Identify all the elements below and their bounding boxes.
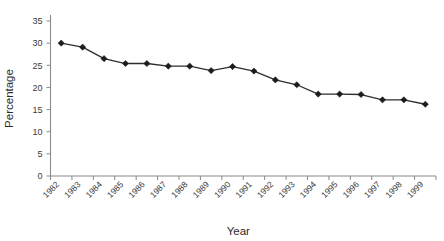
chart-canvas: 05101520253035 1982198319841985198619871… bbox=[0, 0, 444, 241]
y-tick-label: 10 bbox=[32, 127, 42, 137]
plot-area-background bbox=[0, 0, 444, 241]
y-tick-label: 35 bbox=[32, 16, 42, 26]
y-tick-label: 15 bbox=[32, 105, 42, 115]
y-tick-label: 25 bbox=[32, 61, 42, 71]
y-tick-label: 0 bbox=[37, 171, 42, 181]
y-tick-label: 5 bbox=[37, 149, 42, 159]
y-tick-label: 30 bbox=[32, 38, 42, 48]
line-chart-figure: 05101520253035 1982198319841985198619871… bbox=[0, 0, 444, 241]
y-tick-label: 20 bbox=[32, 83, 42, 93]
x-axis-title: Year bbox=[227, 225, 250, 237]
y-axis-title: Percentage bbox=[3, 69, 15, 128]
